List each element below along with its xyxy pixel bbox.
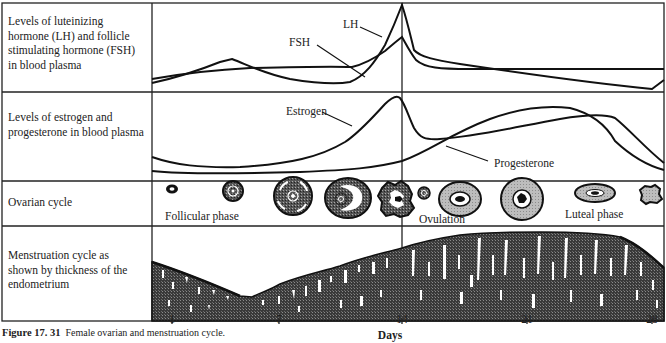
tick-day-1: 1 <box>169 313 175 325</box>
follicle-4 <box>325 178 371 218</box>
x-axis-title: Days <box>378 329 402 341</box>
estrogen-curve <box>152 97 664 168</box>
tick-day-7: 7 <box>276 313 282 325</box>
tick-day-14: 14 <box>396 313 408 325</box>
row-label-ovarian-cycle: Ovarian cycle <box>8 195 146 210</box>
follicle-1 <box>166 185 178 194</box>
figure-caption-text: Female ovarian and menstruation cycle. <box>65 327 225 338</box>
row-label-endometrium: Menstruation cycle as shown by thickness… <box>8 248 138 292</box>
row-label-lh-fsh: Levels of luteinizing hormone (LH) and f… <box>8 14 146 72</box>
tick-day-28: 28 <box>646 313 658 325</box>
tick-day-21: 21 <box>521 313 533 325</box>
ovulation-label: Ovulation <box>419 213 465 225</box>
lh-label: LH <box>343 18 358 30</box>
estrogen-label: Estrogen <box>286 105 327 117</box>
endometrium-thickness <box>152 232 664 321</box>
lh-fsh-curves <box>152 5 664 89</box>
corpus-luteum-3 <box>575 184 615 202</box>
estrogen-progesterone-curves <box>152 97 664 174</box>
progesterone-curve <box>152 107 664 173</box>
follicle-2 <box>223 181 243 201</box>
endometrium-shape <box>152 232 664 321</box>
progesterone-label: Progesterone <box>494 157 554 169</box>
fsh-curve <box>152 37 664 79</box>
figure-number: Figure 17. 31 <box>2 327 60 338</box>
diagram-frame: Levels of luteinizing hormone (LH) and f… <box>0 0 666 343</box>
figure-caption: Figure 17. 31 Female ovarian and menstru… <box>2 327 225 338</box>
row-label-estrogen-progesterone: Levels of estrogen and progesterone in b… <box>8 110 146 139</box>
follicle-ovulating <box>378 181 430 217</box>
corpus-albicans <box>640 185 662 204</box>
corpus-luteum-1 <box>439 182 481 216</box>
luteal-phase-label: Luteal phase <box>565 208 623 220</box>
corpus-luteum-2 <box>501 178 543 220</box>
follicular-phase-label: Follicular phase <box>165 210 239 222</box>
fsh-label: FSH <box>289 36 310 48</box>
follicle-3 <box>274 177 312 215</box>
